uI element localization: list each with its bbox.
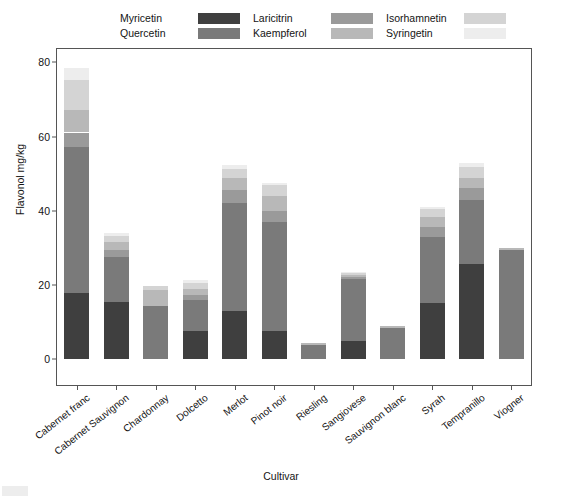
bar-segment-quercetin[interactable] — [262, 222, 287, 331]
bar-segment-quercetin[interactable] — [420, 237, 445, 303]
legend-swatch-isorhamnetin — [464, 13, 506, 24]
x-axis-tick-mark — [156, 385, 157, 390]
bar-segment-laricitrin[interactable] — [183, 295, 208, 301]
bar-segment-quercetin[interactable] — [222, 203, 247, 312]
x-axis-tick-label: Viogner — [492, 392, 526, 422]
bar-stack[interactable] — [341, 272, 366, 359]
y-axis-title: Flavonol mg/kg — [14, 144, 26, 215]
legend-item[interactable]: Quercetin — [120, 27, 253, 40]
legend-swatch-syringetin — [464, 28, 506, 39]
chart-legend: MyricetinQuercetinLaricitrinKaempferolIs… — [120, 12, 520, 46]
bar-segment-myricetin[interactable] — [459, 264, 484, 359]
bar-segment-syringetin[interactable] — [104, 233, 129, 236]
bar-stack[interactable] — [459, 163, 484, 359]
bar-segment-syringetin[interactable] — [262, 183, 287, 185]
legend-swatch-quercetin — [198, 28, 240, 39]
bar-segment-quercetin[interactable] — [459, 200, 484, 264]
bar-segment-isorhamnetin[interactable] — [420, 209, 445, 216]
corner-artifact — [2, 486, 28, 496]
bar-segment-myricetin[interactable] — [183, 331, 208, 359]
bar-stack[interactable] — [104, 233, 129, 359]
legend-item-label: Syringetin — [386, 27, 464, 40]
bar-segment-laricitrin[interactable] — [459, 188, 484, 201]
bar-segment-kaempferol[interactable] — [459, 178, 484, 187]
bar-stack[interactable] — [222, 165, 247, 359]
legend-item[interactable]: Kaempferol — [253, 27, 386, 40]
bar-stack[interactable] — [262, 183, 287, 359]
bar-segment-laricitrin[interactable] — [341, 277, 366, 279]
bar-segment-syringetin[interactable] — [341, 272, 366, 273]
bar-segment-kaempferol[interactable] — [64, 110, 89, 133]
bar-segment-isorhamnetin[interactable] — [104, 236, 129, 242]
bar-segment-kaempferol[interactable] — [222, 178, 247, 190]
bar-segment-syringetin[interactable] — [222, 165, 247, 169]
bar-segment-quercetin[interactable] — [104, 257, 129, 302]
y-axis-tick-mark — [52, 284, 57, 285]
bar-segment-kaempferol[interactable] — [183, 289, 208, 295]
bar-segment-kaempferol[interactable] — [143, 290, 168, 306]
bar-segment-myricetin[interactable] — [420, 303, 445, 359]
legend-item[interactable]: Syringetin — [386, 27, 519, 40]
bar-stack[interactable] — [143, 286, 168, 359]
bar-segment-kaempferol[interactable] — [499, 248, 524, 249]
bar-segment-myricetin[interactable] — [262, 331, 287, 359]
bar-stack[interactable] — [183, 280, 208, 359]
bar-segment-kaempferol[interactable] — [104, 242, 129, 249]
bar-stack[interactable] — [64, 68, 89, 359]
bar-segment-isorhamnetin[interactable] — [143, 286, 168, 290]
bar-segment-laricitrin[interactable] — [104, 250, 129, 257]
bar-segment-myricetin[interactable] — [341, 341, 366, 359]
legend-item-label: Myricetin — [120, 12, 198, 25]
bar-segment-quercetin[interactable] — [183, 300, 208, 330]
bar-stack[interactable] — [380, 326, 405, 359]
bar-segment-kaempferol[interactable] — [341, 275, 366, 276]
bar-segment-quercetin[interactable] — [301, 345, 326, 359]
y-axis-tick-mark — [52, 62, 57, 63]
bar-segment-quercetin[interactable] — [380, 328, 405, 359]
bar-segment-isorhamnetin[interactable] — [222, 169, 247, 178]
bar-segment-myricetin[interactable] — [222, 311, 247, 359]
x-axis-tick-mark — [77, 385, 78, 390]
bar-segment-kaempferol[interactable] — [380, 326, 405, 328]
bar-segment-kaempferol[interactable] — [420, 217, 445, 228]
bar-segment-syringetin[interactable] — [459, 163, 484, 166]
legend-item[interactable]: Myricetin — [120, 12, 253, 25]
bar-segment-syringetin[interactable] — [183, 280, 208, 283]
bar-segment-laricitrin[interactable] — [64, 133, 89, 147]
bar-segment-syringetin[interactable] — [420, 207, 445, 209]
bar-segment-isorhamnetin[interactable] — [64, 80, 89, 110]
bar-segment-isorhamnetin[interactable] — [459, 167, 484, 179]
y-axis-tick-mark — [52, 210, 57, 211]
bar-segment-myricetin[interactable] — [104, 302, 129, 359]
x-axis-tick-label: Pinot noir — [249, 392, 289, 427]
bar-segment-myricetin[interactable] — [64, 293, 89, 359]
bar-segment-syringetin[interactable] — [64, 68, 89, 79]
x-axis-tick-mark — [314, 385, 315, 390]
bar-segment-kaempferol[interactable] — [262, 196, 287, 211]
bar-segment-laricitrin[interactable] — [262, 211, 287, 222]
bar-segment-laricitrin[interactable] — [420, 227, 445, 237]
bars-container — [57, 49, 531, 385]
bar-segment-laricitrin[interactable] — [222, 190, 247, 203]
x-axis-tick-mark — [511, 385, 512, 390]
bar-segment-isorhamnetin[interactable] — [183, 283, 208, 289]
bar-segment-isorhamnetin[interactable] — [262, 185, 287, 196]
legend-column: MyricetinQuercetin — [120, 12, 253, 46]
x-axis-tick-mark — [195, 385, 196, 390]
bar-segment-quercetin[interactable] — [64, 147, 89, 293]
bar-segment-quercetin[interactable] — [143, 306, 168, 359]
legend-item-label: Kaempferol — [253, 27, 331, 40]
bar-segment-quercetin[interactable] — [341, 279, 366, 341]
legend-item[interactable]: Isorhamnetin — [386, 12, 519, 25]
x-axis-title: Cultivar — [0, 470, 562, 482]
x-axis-tick-label: Merlot — [221, 392, 250, 418]
bar-segment-quercetin[interactable] — [499, 250, 524, 359]
bar-stack[interactable] — [301, 343, 326, 359]
flavonol-stacked-bar-chart: MyricetinQuercetinLaricitrinKaempferolIs… — [0, 0, 562, 500]
bar-segment-kaempferol[interactable] — [301, 343, 326, 344]
bar-stack[interactable] — [420, 207, 445, 359]
bar-stack[interactable] — [499, 248, 524, 359]
x-axis-tick-label: Dolcetto — [174, 392, 210, 423]
legend-item[interactable]: Laricitrin — [253, 12, 386, 25]
bar-segment-isorhamnetin[interactable] — [341, 273, 366, 275]
